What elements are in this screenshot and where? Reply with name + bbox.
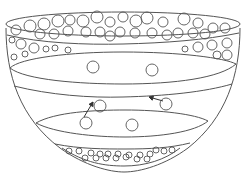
particle-circle (105, 17, 115, 27)
particle-circle (220, 23, 230, 33)
particle-circle (147, 28, 157, 38)
mid-particle-group (80, 61, 172, 131)
particle-circle (130, 28, 140, 38)
particle-circle (9, 37, 15, 43)
particle-circle (80, 117, 92, 129)
particle-circle (118, 12, 128, 22)
particle-circle (65, 15, 75, 25)
particle-circle (38, 18, 50, 30)
particle-circle (93, 155, 99, 161)
upper-layer-bottom-edge (10, 64, 236, 84)
particle-circle (11, 54, 17, 60)
particle-circle (193, 18, 203, 28)
particle-circle (178, 13, 190, 25)
particle-circle (16, 39, 26, 49)
bowl-outline (6, 28, 240, 172)
particle-circle (222, 50, 232, 60)
rim-ellipse (6, 12, 240, 36)
particle-circle (141, 12, 153, 24)
particle-circle (193, 42, 203, 52)
particle-circle (146, 64, 158, 76)
particle-circle (88, 150, 94, 156)
particle-circle (137, 152, 143, 158)
particle-circle (91, 11, 103, 23)
particle-circle (173, 28, 183, 38)
particle-circle (52, 45, 58, 51)
particle-circle (87, 61, 99, 73)
particle-circle (52, 15, 64, 27)
particle-circle (65, 47, 71, 53)
particle-circle (134, 156, 140, 162)
particle-circle (200, 29, 210, 39)
particle-circle (43, 46, 49, 52)
arrow-group (84, 96, 163, 117)
particle-circle (158, 17, 168, 27)
particle-circle (76, 148, 82, 154)
arrowhead-icon (89, 102, 93, 107)
particle-circle (24, 20, 36, 32)
lower-layer-top-edge (36, 110, 208, 123)
particle-circle (126, 119, 138, 131)
upper-layer-top-edge (10, 52, 236, 68)
lower-layer-bottom-edge (36, 121, 208, 137)
particle-circle (182, 46, 188, 52)
particle-circle (29, 43, 39, 53)
arrowhead-icon (149, 96, 153, 100)
particle-circle (207, 40, 217, 50)
middle-layer-boundary (14, 84, 232, 97)
particle-circle (144, 156, 150, 162)
bowl-cross-section (0, 0, 245, 173)
particle-circle (213, 51, 221, 59)
particle-circle (130, 15, 142, 27)
particle-circle (77, 15, 89, 27)
particle-circle (161, 148, 167, 154)
particle-circle (222, 38, 232, 48)
particle-circle (169, 147, 175, 153)
particle-circle (22, 51, 28, 57)
particle-circle (160, 98, 172, 110)
particle-circle (35, 29, 45, 39)
bowl-diagram (0, 0, 245, 173)
